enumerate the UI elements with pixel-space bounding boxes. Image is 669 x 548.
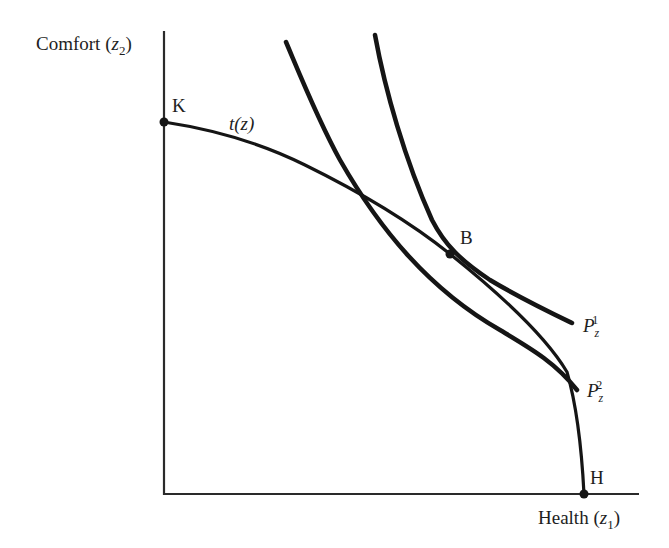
point-b [446,250,455,259]
y-axis-label: Comfort (z2) [36,33,132,58]
price-line-p1 [375,35,572,323]
point-h [580,490,589,499]
point-h-label: H [590,467,604,488]
price-line-p2-label: Pz2 [586,378,604,405]
price-line-p1-label: Pz1 [582,313,600,340]
point-b-label: B [460,227,473,248]
point-k [160,118,169,127]
frontier-curve-t [164,122,584,494]
point-k-label: K [172,95,186,116]
frontier-diagram: Comfort (z2) Health (z1) K B H t(z) Pz1 … [0,0,669,548]
frontier-label-t: t(z) [229,113,254,135]
x-axis-label: Health (z1) [538,507,620,532]
